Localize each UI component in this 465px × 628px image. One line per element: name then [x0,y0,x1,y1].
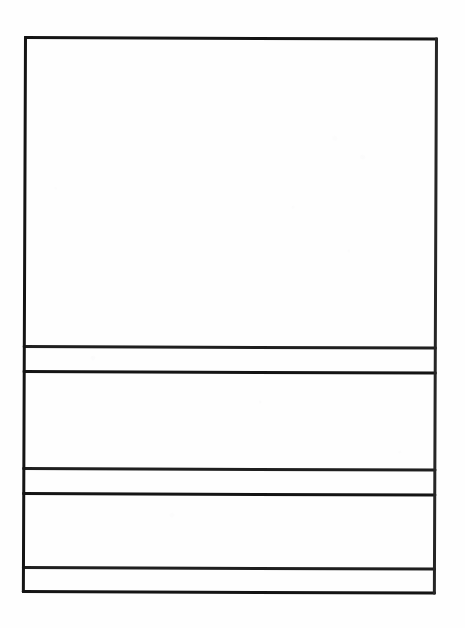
form-cell-row-5[interactable] [25,495,433,568]
table-bottom-border [22,590,436,595]
scanned-page [0,0,465,628]
form-cell-row-4[interactable] [25,470,433,494]
form-cell-row-3[interactable] [25,373,433,469]
form-table [22,36,438,595]
form-cell-row-1[interactable] [26,39,435,347]
form-cell-row-2[interactable] [26,348,434,372]
form-cell-row-6[interactable] [25,569,433,592]
